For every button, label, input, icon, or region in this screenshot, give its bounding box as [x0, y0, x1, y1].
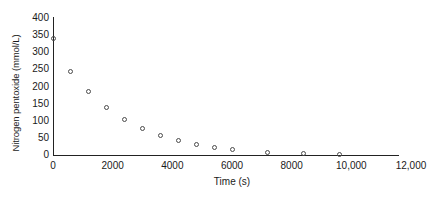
- x-tick-label: 12,000: [381, 160, 431, 171]
- x-axis-title: Time (s): [53, 176, 411, 188]
- x-tick-label: 4000: [142, 160, 202, 171]
- x-tick-label: 0: [23, 160, 83, 171]
- x-tick-label: 6000: [202, 160, 262, 171]
- x-tick-label: 8000: [262, 160, 322, 171]
- x-tick-label: 2000: [83, 160, 143, 171]
- x-tick-label: 10,000: [321, 160, 381, 171]
